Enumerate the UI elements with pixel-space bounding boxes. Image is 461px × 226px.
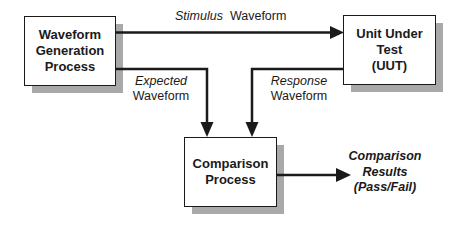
unit-under-test-box: Unit Under Test (UUT) [343, 15, 436, 85]
cmp-line-2: Process [193, 172, 269, 188]
test-flow-diagram: Waveform Generation Process Unit Under T… [0, 0, 461, 226]
results-line-3: (Pass/Fail) [345, 180, 425, 196]
expected-waveform-label: Expected Waveform [128, 74, 194, 104]
waveform-generation-process-box: Waveform Generation Process [24, 16, 116, 86]
expected-arrowhead-icon [201, 122, 214, 137]
results-line-2: Results [345, 165, 425, 181]
stimulus-arrowhead-icon [330, 26, 344, 39]
comparison-results-output: Comparison Results (Pass/Fail) [345, 149, 425, 196]
uut-line-1: Unit Under [356, 26, 422, 42]
stimulus-label-plain: Waveform [230, 9, 287, 23]
stimulus-waveform-label: Stimulus Waveform [175, 9, 286, 24]
wgp-line-1: Waveform [36, 27, 105, 43]
wgp-line-3: Process [36, 59, 105, 75]
uut-line-2: Test [356, 42, 422, 58]
expected-label-plain: Waveform [128, 89, 194, 104]
cmp-line-1: Comparison [193, 156, 269, 172]
stimulus-label-italic: Stimulus [175, 9, 223, 23]
expected-label-italic: Expected [128, 74, 194, 89]
uut-line-3: (UUT) [356, 58, 422, 74]
comparison-process-box: Comparison Process [184, 137, 277, 207]
response-label-italic: Response [266, 74, 332, 89]
response-label-plain: Waveform [266, 89, 332, 104]
response-arrowhead-icon [246, 122, 259, 137]
wgp-line-2: Generation [36, 43, 105, 59]
results-line-1: Comparison [345, 149, 425, 165]
response-waveform-label: Response Waveform [266, 74, 332, 104]
